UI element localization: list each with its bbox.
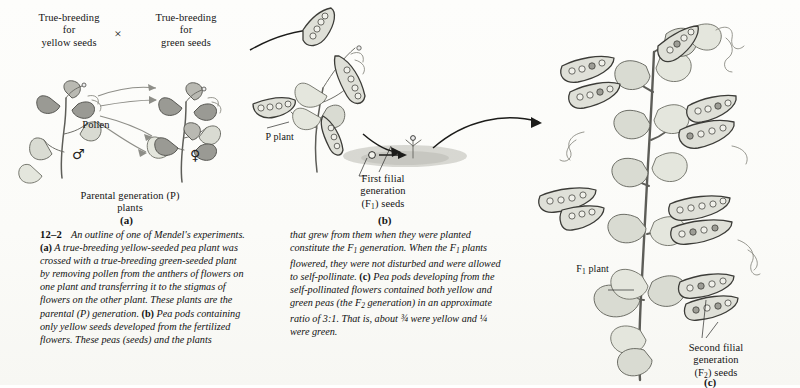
caption-left-column: 12–2An outline of one of Mendel's experi… xyxy=(40,228,245,346)
caption-right-column: that grew from them when they were plant… xyxy=(290,228,505,338)
male-symbol: ♂ xyxy=(72,146,85,162)
panel-b-letter: (b) xyxy=(378,214,391,226)
cross-symbol: × xyxy=(108,26,128,41)
figure-caption: 12–2An outline of one of Mendel's experi… xyxy=(40,228,520,383)
plant-yellow-parent xyxy=(19,81,101,183)
figure-number: 12–2 xyxy=(40,229,62,240)
leader-p-plant xyxy=(267,122,289,128)
f2-seeds-label: Second filial generation (F2) seeds xyxy=(668,342,764,380)
pea-pod-upper xyxy=(303,8,334,46)
parental-generation-label: Parental generation (P) plants xyxy=(50,190,210,215)
pea-pod-f2-7 xyxy=(560,206,604,230)
female-symbol: ♀ xyxy=(190,147,200,163)
panel-c-illustration xyxy=(520,0,800,385)
leader-f2-seeds-2 xyxy=(706,322,718,338)
pollen-label: Pollen xyxy=(66,119,126,131)
pea-pod-f2-11 xyxy=(685,296,739,320)
f1-seeds-label: First filial generation (F1) seeds xyxy=(341,173,425,211)
p-plant xyxy=(253,8,365,172)
pea-pod-f2-4 xyxy=(687,95,736,122)
pea-pod-f2-3 xyxy=(569,82,620,108)
panel-a-label-green: True-breeding for green seeds xyxy=(131,12,241,49)
panel-c-letter: (c) xyxy=(704,376,716,388)
pea-pod-left xyxy=(253,98,295,118)
p-plant-label: P plant xyxy=(248,131,294,143)
pea-pod-f2-8 xyxy=(669,196,730,220)
plant-green-parent xyxy=(147,83,221,182)
soil-and-seedling xyxy=(343,136,467,167)
f1-plant-label: F1 plant xyxy=(561,263,609,276)
pea-pod-f2-10 xyxy=(679,274,734,298)
pea-pod-f2-2 xyxy=(561,56,614,82)
pea-pod-right xyxy=(335,56,365,104)
panel-a-letter: (a) xyxy=(120,214,133,226)
